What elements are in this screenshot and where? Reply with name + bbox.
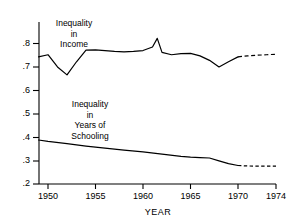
- y-tick-label-6: .6: [14, 86, 30, 95]
- y-tick-label-4: .4: [14, 133, 30, 142]
- income-series-label: Inequality in Income: [42, 18, 106, 50]
- y-tick-label-3: .3: [14, 156, 30, 165]
- x-tick-label-1970: 1970: [221, 192, 255, 201]
- schooling-label-line-3: Years of: [58, 120, 122, 131]
- y-tick-label-5: .5: [14, 109, 30, 118]
- schooling-line-dashed: [238, 166, 276, 167]
- schooling-label-line-2: in: [58, 110, 122, 121]
- x-tick-label-1960: 1960: [126, 192, 160, 201]
- y-tick-label-2: .2: [14, 179, 30, 188]
- schooling-series-label: Inequality in Years of Schooling: [58, 99, 122, 141]
- y-tick-label-7: .7: [14, 62, 30, 71]
- x-tick-label-1950: 1950: [31, 192, 65, 201]
- income-label-line-2: in: [42, 29, 106, 40]
- x-tick-label-1974: 1974: [259, 192, 293, 201]
- x-tick-label-1965: 1965: [174, 192, 208, 201]
- schooling-line-solid: [39, 140, 239, 166]
- income-label-line-3: Income: [42, 39, 106, 50]
- x-axis-ticks: [48, 184, 276, 189]
- income-line-dashed: [238, 54, 276, 57]
- y-tick-label-8: .8: [14, 39, 30, 48]
- x-axis-title: YEAR: [133, 207, 183, 217]
- x-tick-label-1955: 1955: [79, 192, 113, 201]
- income-label-line-1: Inequality: [42, 18, 106, 29]
- schooling-label-line-1: Inequality: [58, 99, 122, 110]
- chart-container: .8 .7 .6 .5 .4 .3 .2 1950 1955 1960 1965…: [0, 0, 296, 222]
- schooling-label-line-4: Schooling: [58, 131, 122, 142]
- y-axis-ticks: [33, 44, 39, 185]
